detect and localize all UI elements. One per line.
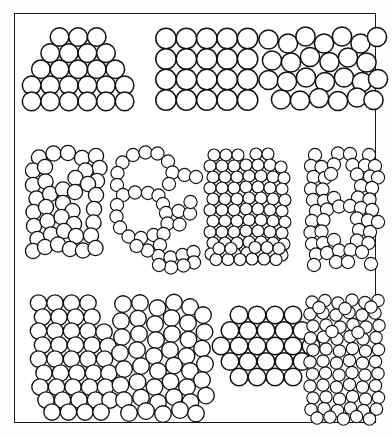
disk <box>257 322 275 340</box>
disk <box>252 203 264 215</box>
disk <box>339 302 351 314</box>
disk <box>306 368 318 380</box>
disk <box>373 319 385 331</box>
disk <box>334 68 353 87</box>
disk <box>176 28 196 48</box>
disk <box>40 213 55 228</box>
disk <box>180 315 197 332</box>
disk <box>255 192 267 204</box>
disk <box>243 170 255 182</box>
disk <box>216 160 228 172</box>
disk <box>259 70 278 89</box>
disk <box>212 337 230 355</box>
disk <box>60 404 76 420</box>
disk <box>359 369 371 381</box>
disk <box>368 69 387 88</box>
disk <box>329 255 342 268</box>
disk <box>252 181 264 193</box>
disk <box>231 171 243 183</box>
disk <box>217 28 237 48</box>
disk <box>364 90 383 109</box>
disk <box>204 204 216 216</box>
disk <box>276 183 288 195</box>
disk <box>276 227 288 239</box>
disk <box>112 377 129 394</box>
disk <box>44 404 60 420</box>
disk <box>152 258 165 271</box>
disk <box>313 301 325 313</box>
disk <box>307 392 319 404</box>
disk <box>132 295 149 312</box>
disk <box>267 193 279 205</box>
disk <box>237 28 257 48</box>
disk <box>130 239 143 252</box>
disk <box>216 204 228 216</box>
disk <box>221 353 239 371</box>
disk <box>273 243 285 255</box>
disk <box>114 329 131 346</box>
disk <box>309 88 328 107</box>
disk <box>237 49 257 69</box>
disk <box>341 255 354 268</box>
disk <box>264 159 276 171</box>
disk <box>60 92 79 111</box>
disk <box>196 324 213 341</box>
disk <box>278 34 297 53</box>
disk <box>333 393 345 405</box>
disk <box>222 254 234 266</box>
disk <box>284 368 302 386</box>
disk <box>156 49 176 69</box>
disk <box>275 322 293 340</box>
disk <box>320 343 332 355</box>
disk <box>97 92 116 111</box>
disk <box>138 403 155 420</box>
disk <box>155 406 172 423</box>
disk <box>213 243 225 255</box>
disk <box>162 373 179 390</box>
disk <box>270 254 282 266</box>
disk <box>248 306 266 324</box>
disk <box>243 192 255 204</box>
disk <box>343 354 355 366</box>
disk <box>112 345 129 362</box>
disk <box>237 69 257 89</box>
disk <box>139 146 152 159</box>
disk <box>346 342 358 354</box>
disk <box>248 368 266 386</box>
disk <box>311 412 323 424</box>
disk <box>197 49 217 69</box>
disk <box>195 307 212 324</box>
disk <box>338 48 357 67</box>
disk <box>177 259 190 272</box>
disk <box>228 182 240 194</box>
disk <box>278 172 290 184</box>
disk <box>147 316 164 333</box>
disk <box>365 181 378 194</box>
disk <box>240 181 252 193</box>
disk <box>284 337 302 355</box>
disk <box>250 148 262 160</box>
disk <box>88 187 103 202</box>
packing-panel-small-disk-random-packing: Random packing of many small disks filli… <box>304 294 385 425</box>
disk <box>239 322 257 340</box>
disk <box>194 372 211 389</box>
disk <box>319 367 331 379</box>
disk <box>255 170 267 182</box>
disk <box>365 301 377 313</box>
disk <box>257 353 275 371</box>
disk <box>113 313 130 330</box>
disk <box>184 195 197 208</box>
disk <box>252 225 264 237</box>
disk <box>328 91 347 110</box>
disk <box>326 325 338 337</box>
disk <box>146 379 163 396</box>
disk <box>228 160 240 172</box>
disk <box>239 353 257 371</box>
disk <box>220 149 232 161</box>
disk <box>115 296 132 313</box>
disk <box>231 193 243 205</box>
disk <box>121 405 138 422</box>
disk <box>234 254 246 266</box>
disk <box>258 253 270 265</box>
packing-panel-dense-hexagonal-packing: Dense hexagonal close packing of small d… <box>204 148 291 266</box>
